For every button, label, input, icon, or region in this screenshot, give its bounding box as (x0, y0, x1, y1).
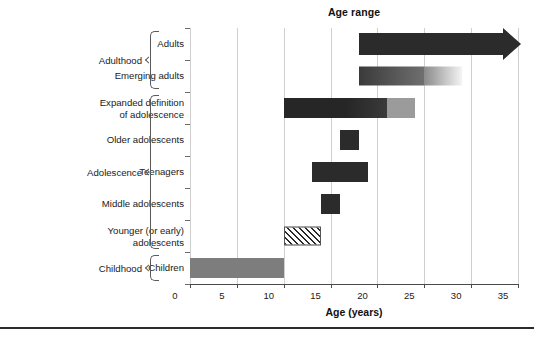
bar-older-adolescents (340, 130, 359, 150)
category-label-line: Older adolescents (44, 134, 184, 146)
x-axis-title: Age (years) (190, 306, 518, 318)
bar-middle-adolescents (321, 194, 340, 214)
plot-area (190, 28, 518, 284)
category-label-line: of adolescence (44, 108, 184, 120)
gridline-35 (518, 28, 519, 284)
x-tick-5 (237, 284, 238, 288)
gridline-10 (284, 28, 285, 284)
x-tick-10 (284, 284, 285, 288)
bar-adults (359, 33, 503, 55)
category-label-middle-adolescents: Middle adolescents (44, 198, 184, 210)
x-tick-20 (377, 284, 378, 288)
bar-children (190, 258, 284, 278)
x-tick-30 (471, 284, 472, 288)
chart-title: Age range (190, 6, 518, 18)
y-tick-0 (185, 28, 190, 29)
y-tick-3 (185, 124, 190, 125)
y-tick-4 (185, 156, 190, 157)
bar-emerging-adults-segment-1 (359, 67, 425, 86)
y-tick-7 (185, 252, 190, 253)
x-tick-35 (518, 284, 519, 288)
y-tick-5 (185, 188, 190, 189)
x-tick-25 (424, 284, 425, 288)
category-label-line: Expanded definition (44, 97, 184, 109)
bar-expanded-definition-of-adolescence-segment-2 (387, 98, 415, 118)
gridline-15 (331, 28, 332, 284)
gridline-0 (190, 28, 191, 284)
x-tick-label-30: 30 (441, 290, 471, 301)
figure-container: Age range AdultsEmerging adultsExpanded … (0, 0, 534, 338)
y-tick-2 (185, 92, 190, 93)
category-label-emerging-adults: Emerging adults (44, 70, 184, 82)
y-tick-6 (185, 220, 190, 221)
category-label-older-adolescents: Older adolescents (44, 134, 184, 146)
x-axis-line (190, 284, 519, 285)
category-label-line: Younger (or early) (44, 225, 184, 237)
category-label-expanded-definition-of-adolescence: Expanded definitionof adolescence (44, 97, 184, 120)
x-tick-label-25: 25 (394, 290, 424, 301)
x-tick-label-5: 5 (207, 290, 237, 301)
category-label-line: adolescents (44, 236, 184, 248)
category-label-adults: Adults (44, 38, 184, 50)
group-label-adulthood: Adulthood (32, 55, 142, 66)
x-tick-label-10: 10 (254, 290, 284, 301)
group-label-childhood: Childhood (32, 263, 142, 274)
bar-younger-or-early-adolescents (284, 227, 321, 246)
x-tick-15 (331, 284, 332, 288)
y-tick-1 (185, 60, 190, 61)
x-tick-label-35: 35 (488, 290, 518, 301)
bar-adults-arrowhead (503, 28, 521, 60)
group-label-adolescence: Adolescence (32, 167, 142, 178)
gridline-5 (237, 28, 238, 284)
category-label-line: Adults (44, 38, 184, 50)
x-tick-label-0: 0 (160, 290, 190, 301)
gridline-30 (471, 28, 472, 284)
category-label-line: Emerging adults (44, 70, 184, 82)
x-tick-0 (190, 284, 191, 288)
x-tick-label-20: 20 (347, 290, 377, 301)
bar-expanded-definition-of-adolescence-segment-1 (284, 98, 387, 118)
category-label-younger-or-early-adolescents: Younger (or early)adolescents (44, 225, 184, 248)
bar-emerging-adults-segment-2 (424, 67, 461, 86)
category-label-line: Middle adolescents (44, 198, 184, 210)
bottom-rule (0, 327, 534, 329)
x-tick-label-15: 15 (301, 290, 331, 301)
bar-teenagers (312, 162, 368, 182)
